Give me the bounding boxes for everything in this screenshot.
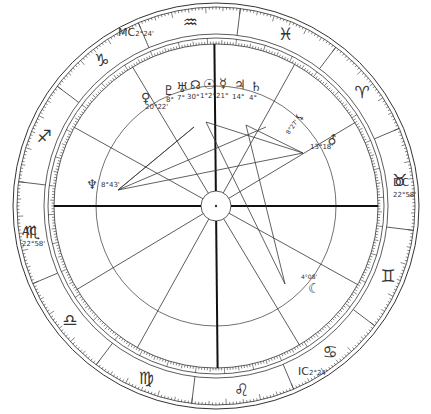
inner-degree-tick: [126, 342, 127, 344]
inner-degree-tick: [165, 360, 166, 362]
inner-degree-tick: [138, 59, 140, 63]
inner-degree-tick: [355, 290, 357, 291]
inner-degree-tick: [110, 330, 112, 332]
outer-degree-tick: [395, 286, 397, 287]
inner-degree-tick: [102, 322, 104, 324]
inner-degree-tick: [340, 310, 342, 312]
inner-degree-tick: [347, 301, 349, 302]
outer-degree-tick: [388, 110, 390, 111]
outer-degree-tick: [357, 68, 359, 70]
inner-degree-tick: [68, 277, 70, 278]
outer-degree-tick: [394, 122, 396, 123]
outer-degree-tick: [73, 68, 75, 70]
inner-degree-tick: [154, 53, 155, 55]
neptune-degree: 8°43': [101, 182, 120, 189]
outer-degree-tick: [151, 392, 152, 394]
inner-degree-tick: [66, 272, 68, 273]
outer-degree-tick: [22, 161, 24, 162]
inner-degree-tick: [313, 335, 315, 337]
inner-degree-tick: [307, 70, 308, 72]
outer-degree-tick: [408, 165, 410, 166]
inner-degree-tick: [299, 345, 300, 347]
inner-degree-tick: [252, 364, 253, 370]
outer-degree-tick: [402, 270, 404, 271]
inner-degree-tick: [176, 363, 177, 365]
inner-degree-tick: [80, 297, 82, 298]
inner-degree-tick: [59, 253, 61, 254]
outer-degree-tick: [119, 378, 120, 380]
inner-degree-tick: [90, 310, 92, 312]
inner-degree-tick: [60, 152, 62, 153]
outer-degree-tick: [91, 359, 93, 361]
sign-boundary: [18, 182, 45, 185]
outer-degree-tick: [332, 45, 333, 47]
inner-degree-tick: [146, 353, 147, 355]
outer-degree-tick: [31, 280, 33, 281]
outer-degree-tick: [280, 392, 281, 394]
uranus-icon: ♅: [176, 81, 188, 94]
outer-degree-tick: [260, 12, 261, 14]
inner-degree-tick: [100, 320, 102, 322]
outer-degree-tick: [323, 39, 324, 41]
inner-degree-tick: [55, 157, 61, 159]
inner-degree-tick: [377, 226, 383, 227]
outer-degree-tick: [154, 393, 155, 395]
outer-degree-tick: [345, 56, 347, 58]
inner-degree-tick: [60, 259, 62, 260]
outer-degree-tick: [171, 12, 172, 18]
ic-label: IC2°24': [298, 366, 328, 377]
outer-degree-tick: [386, 107, 388, 108]
outer-degree-tick: [55, 321, 57, 322]
outer-degree-tick: [386, 304, 388, 305]
inner-degree-tick: [353, 119, 355, 120]
outer-degree-tick: [110, 371, 112, 374]
outer-degree-tick: [391, 116, 393, 117]
outer-degree-tick: [355, 65, 357, 67]
inner-degree-tick: [279, 55, 280, 57]
inner-degree-tick: [344, 104, 347, 106]
aries-icon: ♈: [355, 82, 370, 102]
inner-degree-tick: [329, 88, 331, 90]
outer-degree-tick: [70, 338, 74, 342]
outer-degree-tick: [311, 32, 312, 34]
neptune-icon: ♆: [86, 178, 98, 191]
outer-degree-tick: [34, 286, 36, 287]
inner-degree-tick: [292, 349, 294, 353]
outer-degree-tick: [352, 347, 354, 349]
mars-degree: 13°18': [310, 144, 333, 151]
inner-degree-tick: [320, 80, 322, 82]
inner-degree-tick: [370, 256, 372, 257]
outer-degree-tick: [401, 273, 403, 274]
inner-degree-tick: [75, 121, 77, 122]
inner-degree-tick: [364, 272, 366, 273]
outer-degree-tick: [85, 354, 87, 356]
inner-degree-tick: [58, 256, 62, 257]
outer-degree-tick: [388, 113, 392, 115]
inner-degree-tick: [92, 312, 94, 314]
inner-degree-tick: [255, 46, 256, 48]
outer-degree-tick: [302, 27, 303, 29]
outer-degree-tick: [175, 11, 176, 13]
inner-degree-tick: [75, 294, 80, 297]
sign-boundary: [96, 343, 112, 365]
outer-degree-tick: [22, 249, 28, 250]
ic-text: IC: [298, 365, 309, 378]
aquarius-icon: ♒: [183, 12, 198, 32]
outer-degree-tick: [396, 125, 398, 126]
inner-degree-tick: [307, 340, 308, 342]
inner-degree-tick: [67, 274, 69, 275]
outer-degree-tick: [405, 260, 407, 261]
outer-degree-tick: [406, 257, 408, 258]
inner-degree-tick: [73, 287, 75, 288]
outer-degree-tick: [111, 37, 112, 39]
inner-degree-tick: [105, 326, 108, 329]
inner-degree-tick: [318, 78, 320, 80]
outer-degree-tick: [393, 292, 395, 293]
outer-degree-tick: [37, 292, 39, 293]
outer-degree-tick: [342, 357, 344, 359]
inner-degree-tick: [78, 116, 80, 117]
outer-degree-tick: [57, 324, 59, 326]
inner-degree-tick: [176, 46, 177, 48]
outer-degree-tick: [168, 13, 169, 15]
ic-degree: 2°24': [309, 369, 328, 377]
